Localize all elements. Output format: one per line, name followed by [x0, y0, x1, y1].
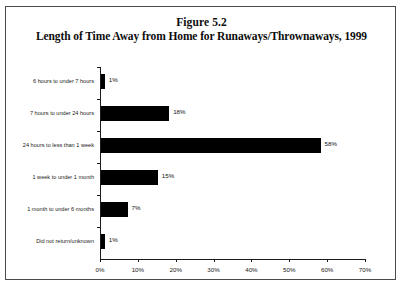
figure-frame: Figure 5.2 Length of Time Away from Home…	[5, 6, 396, 280]
table-row: 1 month to under 6 months7%	[100, 195, 365, 227]
x-axis-tick-label: 10%	[132, 265, 144, 274]
bar-segment	[101, 74, 105, 89]
x-axis-tick-label: 20%	[170, 265, 182, 274]
bar-value-label: 18%	[173, 108, 185, 116]
x-axis-tick	[251, 259, 252, 262]
category-axis-label: 7 hours to under 24 hours	[30, 109, 94, 117]
x-axis-tick-label: 60%	[321, 265, 333, 274]
figure-number: Figure 5.2	[6, 15, 397, 29]
bar-value-label: 15%	[162, 172, 174, 180]
category-axis-label: 6 hours to under 7 hours	[33, 77, 94, 85]
category-tick	[97, 131, 100, 132]
category-tick	[97, 227, 100, 228]
x-axis-tick	[214, 259, 215, 262]
x-axis-tick-label: 70%	[359, 265, 371, 274]
x-axis-tick-label: 30%	[207, 265, 219, 274]
category-tick	[97, 195, 100, 196]
x-axis-tick	[289, 259, 290, 262]
bar-segment	[101, 170, 158, 185]
bar-chart-plot-area: 6 hours to under 7 hours1%7 hours to und…	[100, 67, 365, 263]
category-axis-label: 1 month to under 6 months	[27, 205, 94, 213]
bar-segment	[101, 138, 321, 153]
x-axis-tick-label: 0%	[96, 265, 105, 274]
value-axis-line	[100, 259, 365, 260]
x-axis-tick	[138, 259, 139, 262]
x-axis-tick	[100, 259, 101, 262]
bar-value-label: 1%	[109, 236, 118, 244]
category-tick	[97, 163, 100, 164]
bar-segment	[101, 202, 128, 217]
x-axis-tick	[327, 259, 328, 262]
category-tick	[97, 99, 100, 100]
x-axis-tick-label: 50%	[283, 265, 295, 274]
table-row: 6 hours to under 7 hours1%	[100, 67, 365, 99]
page-title: Length of Time Away from Home for Runawa…	[6, 29, 397, 44]
bar-value-label: 7%	[132, 204, 141, 212]
category-axis-label: 1 week to under 1 month	[32, 173, 94, 181]
category-axis-label: Did not return/unknown	[36, 237, 94, 245]
x-axis-tick-label: 40%	[245, 265, 257, 274]
x-axis-tick	[365, 259, 366, 262]
bar-value-label: 58%	[325, 140, 337, 148]
bar-value-label: 1%	[109, 76, 118, 84]
table-row: Did not return/unknown1%	[100, 227, 365, 259]
bar-segment	[101, 106, 169, 121]
table-row: 1 week to under 1 month15%	[100, 163, 365, 195]
table-row: 7 hours to under 24 hours18%	[100, 99, 365, 131]
category-axis-label: 24 hours to less than 1 week	[23, 141, 94, 149]
table-row: 24 hours to less than 1 week58%	[100, 131, 365, 163]
bar-segment	[101, 234, 105, 249]
category-tick	[97, 67, 100, 68]
x-axis-tick	[176, 259, 177, 262]
figure-title-block: Figure 5.2 Length of Time Away from Home…	[6, 15, 397, 44]
